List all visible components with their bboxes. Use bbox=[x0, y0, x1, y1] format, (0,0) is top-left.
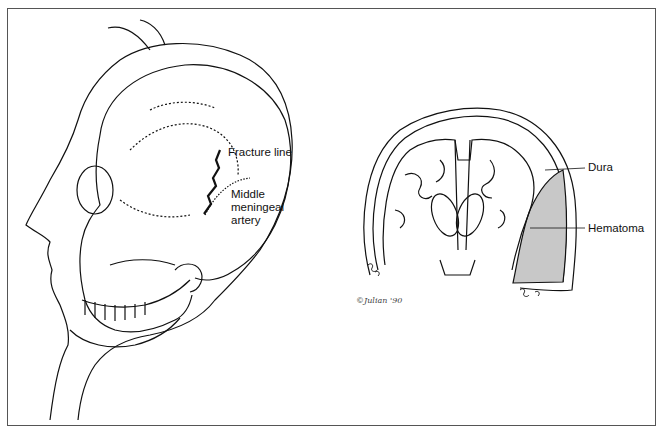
hematoma-region bbox=[513, 170, 566, 283]
coronal-section bbox=[364, 108, 585, 296]
artist-signature: ©Julian '90 bbox=[356, 296, 402, 305]
artery-label-line3: artery bbox=[231, 214, 260, 227]
artery-label-line1: Middle bbox=[231, 188, 265, 201]
dura-label: Dura bbox=[588, 161, 613, 174]
anatomy-illustration bbox=[0, 0, 664, 435]
fracture-line-label: Fracture line bbox=[228, 146, 292, 159]
artery-label-line2: meningeal bbox=[231, 201, 284, 214]
hematoma-label: Hematoma bbox=[588, 222, 644, 235]
dura-leader-line bbox=[545, 168, 585, 170]
